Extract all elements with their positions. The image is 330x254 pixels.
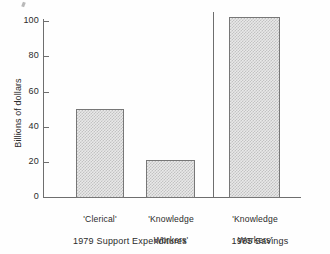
bar-label-clerical-1979: 'Clerical' [60, 203, 140, 224]
y-tick-mark-20 [44, 162, 49, 163]
y-tick-0: 0 [0, 197, 49, 198]
group-label-1985: 1985 Savings [215, 236, 305, 246]
bar-label-line1: 'Clerical' [83, 214, 116, 224]
group-separator-line [213, 12, 214, 198]
y-tick-40: 40 [0, 127, 49, 128]
chart-figure: Billions of dollars 100 80 60 40 20 0 [0, 0, 330, 254]
y-tick-label-40: 40 [9, 122, 39, 131]
group-label-1979: 1979 Support Expenditures [50, 236, 210, 246]
y-tick-mark-100 [44, 21, 49, 22]
y-tick-20: 20 [0, 162, 49, 163]
y-tick-label-80: 80 [9, 51, 39, 60]
y-tick-label-100: 100 [9, 16, 39, 25]
y-tick-mark-40 [44, 127, 49, 128]
y-tick-mark-80 [44, 56, 49, 57]
bar-label-line1: 'Knowledge [148, 214, 194, 224]
scan-artifact [21, 2, 26, 8]
bar-label-line1: 'Knowledge [232, 214, 278, 224]
bar-clerical-1979 [76, 109, 124, 198]
y-tick-60: 60 [0, 92, 49, 93]
y-tick-80: 80 [0, 56, 49, 57]
y-tick-label-20: 20 [9, 157, 39, 166]
plot-area: Billions of dollars 100 80 60 40 20 0 [0, 0, 330, 254]
y-axis-line [43, 19, 44, 198]
y-tick-label-0: 0 [9, 192, 39, 201]
bar-knowledge-workers-1985 [229, 17, 280, 198]
bar-knowledge-workers-1979 [146, 160, 195, 198]
y-tick-label-60: 60 [9, 87, 39, 96]
y-tick-100: 100 [0, 21, 49, 22]
y-tick-mark-60 [44, 92, 49, 93]
